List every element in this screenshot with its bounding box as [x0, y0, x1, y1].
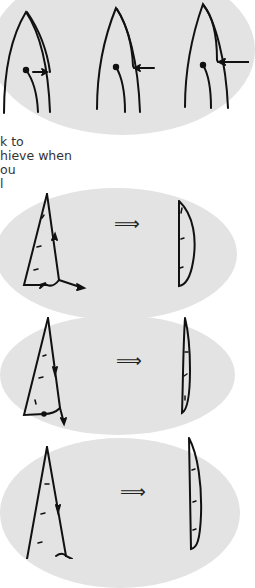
- row-3-implies-arrow: ⟹: [120, 483, 146, 501]
- row-3-left-sail-icon: [27, 447, 72, 559]
- row-3-right-profile-icon: [189, 438, 201, 549]
